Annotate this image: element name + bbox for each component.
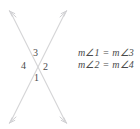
equation-line-2: m∠2 = m∠4 [78, 59, 138, 71]
equations-block: m∠1 = m∠3 m∠2 = m∠4 [78, 47, 138, 71]
equation-line-1: m∠1 = m∠3 [78, 47, 138, 59]
vertical-angles-figure: 3 4 2 1 m∠1 = m∠3 m∠2 = m∠4 [0, 0, 140, 129]
angle-label-1: 1 [34, 73, 39, 83]
angle-label-2: 2 [43, 62, 48, 72]
angle-label-4: 4 [21, 61, 26, 71]
angle-label-3: 3 [33, 48, 38, 58]
